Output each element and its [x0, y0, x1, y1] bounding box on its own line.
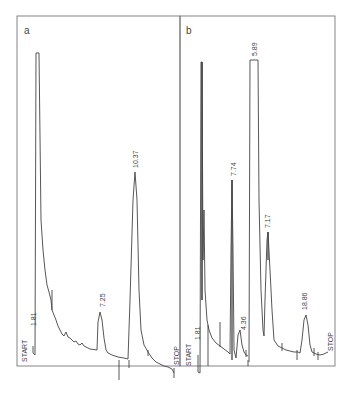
chromatogram-figure: a b START 1.81 7.25 10.37 STOP: [0, 0, 353, 403]
panel-b-peak-label-5: 7.17: [264, 214, 271, 228]
panel-a-label: a: [24, 25, 30, 36]
panel-b-peak-label-6: 18.86: [301, 292, 308, 310]
panel-b: [180, 16, 335, 366]
panel-b-peak-label-1: 1.81: [194, 326, 201, 340]
panel-b-label: b: [186, 25, 192, 36]
panel-b-trace: [198, 60, 328, 373]
panel-a-peak-label-3: 10.37: [132, 150, 139, 168]
panel-a-stop-label: STOP: [173, 346, 180, 365]
panel-a-start-label: START: [21, 339, 28, 362]
panel-a-trace: [33, 53, 174, 380]
panel-a-peak-label-2: 7.25: [99, 293, 106, 307]
panel-a-peak-label-1: 1.81: [30, 312, 37, 326]
panel-b-stop-label: STOP: [327, 332, 334, 351]
panel-b-peak-label-3: 7.74: [230, 162, 237, 176]
panel-a: [17, 16, 180, 366]
panel-b-start-label: START: [185, 343, 192, 366]
panel-b-peak-label-2: 4.36: [240, 316, 247, 330]
panel-b-peak-label-4: 5.89: [251, 42, 258, 56]
